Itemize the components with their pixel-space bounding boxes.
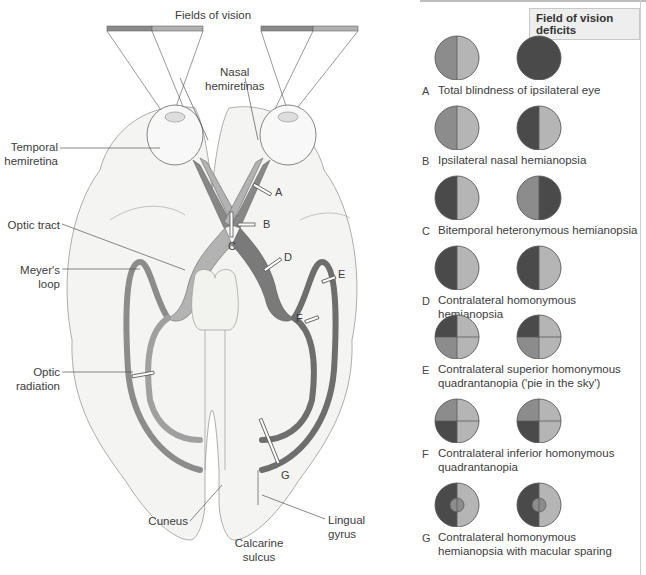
right-eye-field-disc [517,246,561,290]
right-eye-field-disc [517,483,561,527]
deficit-letter: C [422,225,430,237]
deficit-description: Bitemporal heteronymous hemianopsia [438,224,643,238]
deficit-description-line: Total blindness of ipsilateral eye [438,84,643,98]
deficit-letter: D [422,295,430,307]
right-eye-field-disc [517,399,561,443]
label-nasal-hemiretinas: Nasal hemiretinas [205,65,264,93]
lesion-marker-g: G [281,469,290,481]
label-cuneus: Cuneus [140,514,188,528]
left-eye-field-disc [435,315,479,359]
deficit-discs [422,104,642,150]
deficit-description-line: Contralateral homonymous [438,531,643,545]
field-of-vision-bar-right [261,26,358,31]
deficit-description: Contralateral homonymoushemianopsia with… [438,531,643,558]
deficit-description-line: Contralateral superior homonymous [438,363,643,377]
field-of-vision-bar-left [107,26,203,31]
field-of-vision-deficits-panel: Field of vision deficits ATotal blindnes… [422,0,641,575]
lesion-marker-d: D [284,251,292,263]
fields-of-vision-title: Fields of vision [175,8,251,22]
deficit-discs [422,244,642,290]
label-temporal-hemiretina: Temporal hemiretina [4,140,58,168]
deficit-description: Ipsilateral nasal hemianopsia [438,154,643,168]
deficit-description-line: quadrantanopia ('pie in the sky') [438,377,643,391]
deficit-description: Contralateral inferior homonymousquadran… [438,447,643,474]
deficit-letter: G [422,532,431,544]
deficit-letter: A [422,85,429,97]
deficit-discs [422,397,642,443]
right-eye-field-disc [517,106,561,150]
deficit-discs [422,313,642,359]
label-optic-tract: Optic tract [4,218,60,232]
right-eye-field-disc [517,315,561,359]
deficit-letter: B [422,155,429,167]
visual-pathway-diagram: Fields of vision Nasal hemiretinas Tempo… [0,0,420,575]
deficit-letter: E [422,364,429,376]
left-eye-field-disc [435,36,479,80]
label-lingual-gyrus: Lingual gyrus [328,513,365,541]
lesion-marker-e: E [338,268,345,280]
right-eye-field-disc [517,176,561,220]
lesion-marker-b: B [263,218,270,230]
deficit-description-line: hemianopsia with macular sparing [438,545,643,559]
deficit-description-line: Contralateral inferior homonymous [438,447,643,461]
deficit-description: Contralateral superior homonymousquadran… [438,363,643,390]
deficit-discs [422,174,642,220]
left-eye-field-disc [435,106,479,150]
left-eye [147,105,203,165]
label-optic-radiation: Optic radiation [4,365,60,393]
lesion-marker-a: A [275,186,282,198]
deficit-description: Total blindness of ipsilateral eye [438,84,643,98]
lesion-marker-f: F [296,312,303,324]
lesion-marker-c: C [228,240,236,252]
deficit-description-line: Bitemporal heteronymous hemianopsia [438,224,643,238]
left-eye-field-disc [435,176,479,220]
deficit-discs [422,34,642,80]
deficit-letter: F [422,448,429,460]
label-calcarine-sulcus: Calcarine sulcus [234,536,284,564]
deficit-description-line: quadrantanopia [438,461,643,475]
left-eye-field-disc [435,399,479,443]
deficit-description-line: Ipsilateral nasal hemianopsia [438,154,643,168]
right-eye [260,105,316,165]
midbrain [192,269,239,330]
left-eye-field-disc [435,483,479,527]
deficit-discs [422,481,642,527]
label-meyers-loop: Meyer's loop [4,263,60,291]
right-eye-field-disc [517,36,561,80]
left-eye-field-disc [435,246,479,290]
